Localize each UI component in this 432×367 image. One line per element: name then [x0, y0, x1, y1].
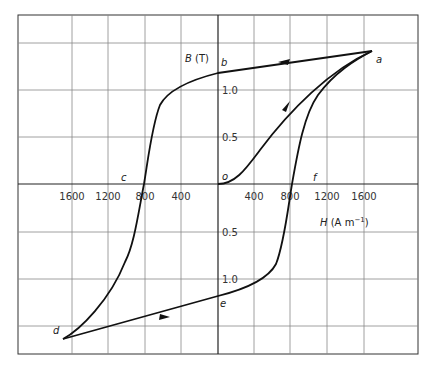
point-b-label: b	[221, 57, 227, 68]
point-d-label: d	[53, 325, 60, 336]
svg-text:1600: 1600	[351, 191, 376, 202]
svg-text:1600: 1600	[59, 191, 84, 202]
point-o-label: o	[222, 171, 228, 182]
x-axis-label: H (A m−1)	[320, 216, 369, 228]
point-f-label: f	[313, 172, 318, 183]
y-tick-labels: 1.0 0.5 0.5 1.0	[222, 85, 238, 285]
svg-text:0.5: 0.5	[222, 132, 238, 143]
arrow-up-icon	[282, 101, 290, 112]
point-e-label: e	[220, 298, 226, 309]
y-axis-label: B (T)	[185, 53, 209, 64]
svg-text:1200: 1200	[314, 191, 339, 202]
point-a-label: a	[376, 54, 382, 65]
svg-text:0.5: 0.5	[222, 227, 238, 238]
arrow-right-icon	[159, 314, 170, 320]
hysteresis-chart: 1600 1200 800 400 400 800 1200 1600 1.0 …	[0, 0, 432, 367]
point-c-label: c	[121, 172, 127, 183]
svg-text:1.0: 1.0	[222, 274, 238, 285]
svg-text:1.0: 1.0	[222, 85, 238, 96]
svg-text:1200: 1200	[95, 191, 120, 202]
svg-text:800: 800	[135, 191, 154, 202]
svg-text:400: 400	[171, 191, 190, 202]
svg-text:400: 400	[244, 191, 263, 202]
